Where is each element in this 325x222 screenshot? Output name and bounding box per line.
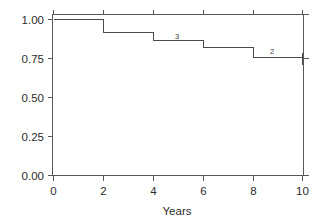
plot-canvas: 1.00 0.75 0.50 0.25 0.00 0 2 4 6 8 10 Ye… — [0, 0, 325, 222]
x-axis-ticks — [54, 176, 303, 181]
x-tick-label-3: 4 — [150, 185, 157, 197]
top-axis-ticks — [54, 10, 303, 15]
y-tick-label-3: 0.50 — [22, 92, 44, 104]
x-axis-title: Years — [163, 205, 192, 217]
annotation-at-risk-3: 3 — [175, 32, 179, 41]
x-tick-label-6: 10 — [296, 185, 309, 197]
x-tick-label-2: 2 — [100, 185, 106, 197]
x-tick-label-4: 6 — [200, 185, 206, 197]
y-axis-ticks — [48, 20, 53, 176]
x-tick-label-1: 0 — [50, 185, 56, 197]
y-tick-label-1: 1.00 — [22, 14, 44, 26]
right-axis-ticks — [304, 15, 309, 176]
survival-chart-figure: 1.00 0.75 0.50 0.25 0.00 0 2 4 6 8 10 Ye… — [0, 0, 325, 222]
y-tick-label-2: 0.75 — [22, 53, 44, 65]
annotation-at-risk-2: 2 — [270, 47, 274, 56]
x-tick-label-5: 8 — [250, 185, 256, 197]
y-tick-label-5: 0.00 — [22, 170, 44, 182]
y-tick-label-4: 0.25 — [22, 131, 44, 143]
